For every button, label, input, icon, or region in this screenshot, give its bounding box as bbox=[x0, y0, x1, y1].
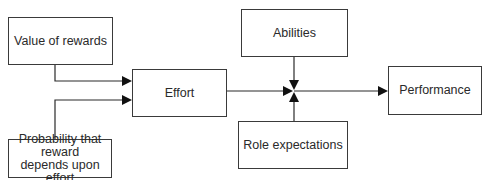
node-label: Role expectations bbox=[239, 139, 346, 152]
node-abilities: Abilities bbox=[241, 9, 348, 57]
node-label: Value of rewards bbox=[10, 35, 111, 48]
node-value-of-rewards: Value of rewards bbox=[8, 17, 113, 65]
motivation-performance-diagram: Value of rewards Probability that reward… bbox=[0, 0, 490, 180]
arrowhead-icon bbox=[122, 95, 132, 105]
node-effort: Effort bbox=[132, 69, 227, 117]
node-role-expectations: Role expectations bbox=[238, 121, 348, 169]
node-label: Abilities bbox=[269, 27, 320, 40]
node-probability: Probability that reward depends upon eff… bbox=[8, 139, 112, 178]
arrowhead-icon bbox=[122, 76, 132, 86]
node-label: Effort bbox=[161, 87, 199, 100]
node-performance: Performance bbox=[388, 66, 482, 115]
arrowhead-icon bbox=[378, 86, 388, 96]
arrowhead-icon bbox=[289, 92, 299, 102]
arrowhead-icon bbox=[289, 80, 299, 90]
arrowhead-icon bbox=[283, 86, 293, 96]
edge-value-to-effort bbox=[55, 65, 124, 81]
node-label: Probability that reward depends upon eff… bbox=[12, 133, 108, 181]
node-label: Performance bbox=[395, 84, 475, 97]
